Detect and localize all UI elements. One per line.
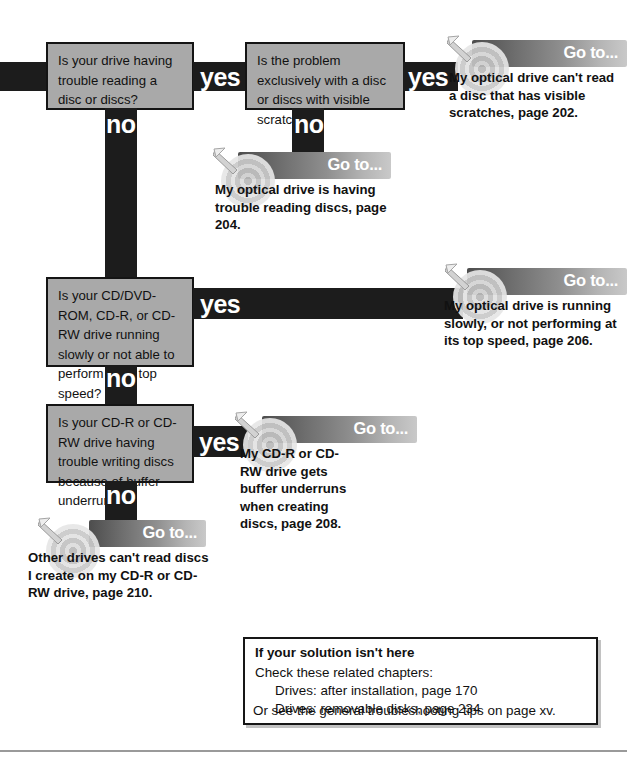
page-bottom-rule [0,750,627,752]
flowchart-canvas: Is your drive having trouble reading a d… [0,0,627,759]
decision-box-q3[interactable]: Is your CD/DVD-ROM, CD-R, or CD-RW drive… [46,277,194,367]
outcome-block-5[interactable]: Go to... Other drives can't read discs I… [14,520,224,630]
outcome-block-2[interactable]: Go to... My optical drive is having trou… [213,152,413,242]
goto-header-2: Go to... [238,152,391,179]
outcome-block-4[interactable]: Go to... My CD-R or CD-RW drive gets buf… [232,416,422,526]
goto-body-2: My optical drive is having trouble readi… [215,181,400,234]
goto-header-5: Go to... [89,520,206,547]
note-line-4: Or see the general troubleshooting tips … [253,703,556,718]
label-q2-no: no [294,112,324,137]
goto-header-1: Go to... [472,40,627,67]
goto-body-5: Other drives can't read discs I create o… [28,549,213,602]
decision-box-q2[interactable]: Is the problem exclusively with a disc o… [245,42,405,110]
goto-header-label-5: Go to... [143,523,197,542]
goto-header-label-4: Go to... [354,419,408,438]
note-line-1: Check these related chapters: [255,664,433,682]
goto-header-label-3: Go to... [564,271,618,290]
label-q2-yes: yes [408,65,448,90]
goto-body-3: My optical drive is running slowly, or n… [444,297,624,350]
outcome-block-3[interactable]: Go to... My optical drive is running slo… [440,268,627,368]
goto-header-label-2: Go to... [328,155,382,174]
decision-box-q1[interactable]: Is your drive having trouble reading a d… [46,42,194,110]
label-q3-yes: yes [200,292,240,317]
label-q1-no: no [106,112,136,137]
outcome-block-1[interactable]: Go to... My optical drive can't read a d… [447,40,627,140]
decision-box-q4[interactable]: Is your CD-R or CD-RW drive having troub… [46,404,194,483]
note-line-2: Drives: after installation, page 170 [275,682,477,700]
goto-header-4: Go to... [262,416,417,443]
goto-header-3: Go to... [467,268,627,295]
goto-body-1: My optical drive can't read a disc that … [449,69,625,122]
note-title: If your solution isn't here [255,645,414,660]
label-q3-no: no [106,366,136,391]
goto-body-4: My CD-R or CD-RW drive gets buffer under… [240,445,360,533]
label-q4-no: no [106,483,136,508]
entry-connector [0,62,50,91]
goto-header-label-1: Go to... [564,43,618,62]
label-q1-yes: yes [200,65,240,90]
